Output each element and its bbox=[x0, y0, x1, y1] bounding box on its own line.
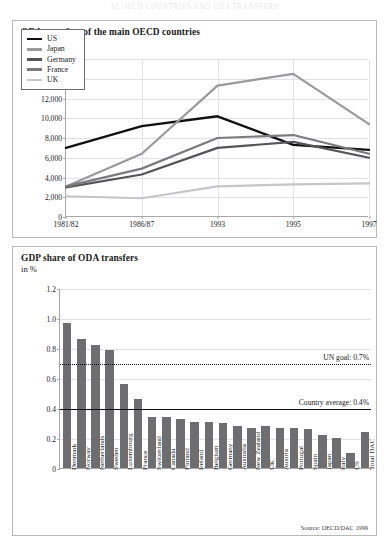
figure2-title: GDP share of ODA transfers bbox=[21, 253, 376, 263]
reference-line-solid bbox=[60, 409, 371, 410]
y-axis-label: 0 bbox=[52, 465, 56, 474]
y-axis-label: 0.4 bbox=[47, 405, 57, 414]
y-tickmark bbox=[57, 289, 60, 290]
legend-swatch-icon bbox=[27, 38, 42, 41]
figure2-subtitle: in % bbox=[21, 264, 376, 274]
line-series-uk bbox=[66, 183, 369, 198]
x-tickmark bbox=[66, 216, 67, 219]
x-tickmark bbox=[142, 216, 143, 219]
legend-item: Japan bbox=[27, 44, 76, 54]
x-tickmark bbox=[218, 216, 219, 219]
line-chart-series bbox=[66, 59, 369, 217]
legend-item: Germany bbox=[27, 54, 76, 64]
bar-category-label: Total DAC bbox=[368, 439, 376, 470]
legend-label: Japan bbox=[47, 45, 65, 53]
gridline bbox=[60, 289, 371, 290]
x-tickmark bbox=[369, 216, 370, 219]
legend-label: France bbox=[47, 66, 68, 74]
legend-item: UK bbox=[27, 75, 76, 85]
y-axis-label: 1.2 bbox=[47, 285, 57, 294]
legend-label: UK bbox=[47, 76, 58, 84]
y-axis-label: 2,000 bbox=[45, 193, 62, 202]
figure-gdp-share: GDP share of ODA transfers in % 00.20.40… bbox=[12, 246, 377, 536]
gridline bbox=[60, 319, 371, 320]
figure-oda-transfers: ODA transfers of the main OECD countries… bbox=[12, 20, 377, 238]
x-tick-group: 1981/82 bbox=[54, 216, 79, 229]
y-tickmark bbox=[57, 349, 60, 350]
legend-label: US bbox=[47, 35, 57, 43]
figure2-source-note: Source: OECD/DAC 1999 bbox=[301, 524, 368, 531]
y-tickmark bbox=[57, 379, 60, 380]
reference-line-label: Country average: 0.4% bbox=[299, 398, 369, 407]
y-axis-label: 12,000 bbox=[41, 94, 62, 103]
y-axis-label: 0.2 bbox=[47, 435, 57, 444]
y-axis-label: 0.6 bbox=[47, 375, 57, 384]
legend-swatch-icon bbox=[27, 58, 42, 61]
legend-item: France bbox=[27, 65, 76, 75]
y-tickmark bbox=[57, 319, 60, 320]
x-tick-group: 1995 bbox=[286, 216, 301, 229]
y-axis-label: 4,000 bbox=[45, 173, 62, 182]
y-tickmark bbox=[57, 469, 60, 470]
bar-chart-plot-area: 00.20.40.60.81.01.2 DenmarkNorwayNetherl… bbox=[59, 289, 371, 469]
line-chart-plot-area: 02,0004,0006,0008,00010,00012,00014,0001… bbox=[65, 59, 368, 217]
y-axis-label: 8,000 bbox=[45, 134, 62, 143]
legend-swatch-icon bbox=[27, 48, 42, 51]
y-axis-label: 10,000 bbox=[41, 114, 62, 123]
x-tickmark bbox=[293, 216, 294, 219]
line-chart-legend: USJapanGermanyFranceUK bbox=[21, 29, 85, 90]
line-series-us bbox=[66, 116, 369, 150]
vertical-separator bbox=[369, 59, 370, 216]
legend-swatch-icon bbox=[27, 79, 42, 82]
legend-label: Germany bbox=[47, 56, 76, 64]
line-series-germany bbox=[66, 142, 369, 187]
y-axis-label: 6,000 bbox=[45, 153, 62, 162]
x-tick-group: 1997 bbox=[361, 216, 376, 229]
y-tickmark bbox=[57, 439, 60, 440]
page-running-header: 12 OECD COUNTRIES AND ODA TRANSFERS bbox=[0, 0, 389, 14]
reference-line-dotted bbox=[60, 364, 371, 365]
x-tick-group: 1986/87 bbox=[129, 216, 154, 229]
y-axis-label: 1.0 bbox=[47, 315, 57, 324]
y-axis-label: 0.8 bbox=[47, 345, 57, 354]
legend-item: US bbox=[27, 34, 76, 44]
line-series-japan bbox=[66, 74, 369, 187]
legend-swatch-icon bbox=[27, 68, 42, 71]
reference-line-label: UN goal: 0.7% bbox=[323, 353, 369, 362]
x-tick-group: 1993 bbox=[210, 216, 225, 229]
